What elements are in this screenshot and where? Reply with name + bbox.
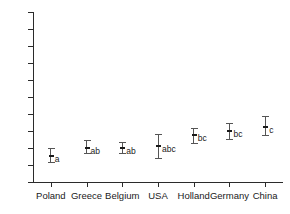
x-tick-label-usa: USA xyxy=(148,190,168,201)
x-tick-mark xyxy=(158,183,159,187)
error-bar-cap-lower xyxy=(84,153,91,154)
significance-group-label: abc xyxy=(162,145,176,154)
mean-marker xyxy=(192,134,197,136)
x-tick-mark xyxy=(122,183,123,187)
mean-marker xyxy=(49,155,54,157)
y-tick-mark xyxy=(28,131,33,132)
x-tick-mark xyxy=(194,183,195,187)
x-tick-label-holland: Holland xyxy=(178,190,210,201)
mean-marker xyxy=(263,126,268,128)
error-bar-cap-lower xyxy=(48,162,55,163)
significance-group-label: ab xyxy=(126,147,135,156)
mean-marker xyxy=(85,147,90,149)
mean-marker xyxy=(120,147,125,149)
x-tick-mark xyxy=(265,183,266,187)
error-bar-cap-lower xyxy=(262,135,269,136)
error-bar-cap-upper xyxy=(119,142,126,143)
y-tick-mark xyxy=(28,12,33,13)
x-tick-label-poland: Poland xyxy=(36,190,66,201)
y-tick-mark xyxy=(28,165,33,166)
error-bar-cap-upper xyxy=(262,116,269,117)
error-bar-cap-upper xyxy=(191,128,198,129)
y-tick-mark xyxy=(28,46,33,47)
significance-group-label: ab xyxy=(91,147,100,156)
error-bar-cap-lower xyxy=(191,143,198,144)
error-bar-cap-upper xyxy=(155,134,162,135)
mean-marker xyxy=(156,145,161,147)
significance-group-label: c xyxy=(269,126,273,135)
y-tick-mark xyxy=(28,29,33,30)
x-tick-label-belgium: Belgium xyxy=(105,190,139,201)
error-bar-cap-upper xyxy=(48,148,55,149)
y-axis-line xyxy=(33,12,34,183)
mean-marker xyxy=(227,130,232,132)
y-tick-mark xyxy=(28,182,33,183)
y-tick-mark xyxy=(28,80,33,81)
x-tick-label-china: China xyxy=(253,190,278,201)
error-bar-cap-lower xyxy=(119,153,126,154)
x-tick-label-greece: Greece xyxy=(71,190,102,201)
error-bar-cap-lower xyxy=(155,158,162,159)
error-bar-cap-lower xyxy=(226,139,233,140)
x-tick-mark xyxy=(87,183,88,187)
error-bar-cap-upper xyxy=(84,140,91,141)
significance-group-label: bc xyxy=(198,134,207,143)
y-tick-mark xyxy=(28,63,33,64)
y-tick-mark xyxy=(28,97,33,98)
chart-container: 0102030405060708090100 PolandGreeceBelgi… xyxy=(0,0,290,214)
x-tick-mark xyxy=(51,183,52,187)
error-bar-cap-upper xyxy=(226,123,233,124)
x-tick-mark xyxy=(229,183,230,187)
significance-group-label: a xyxy=(55,155,60,164)
y-tick-mark xyxy=(28,114,33,115)
significance-group-label: bc xyxy=(233,130,242,139)
x-tick-label-germany: Germany xyxy=(210,190,249,201)
y-tick-mark xyxy=(28,148,33,149)
